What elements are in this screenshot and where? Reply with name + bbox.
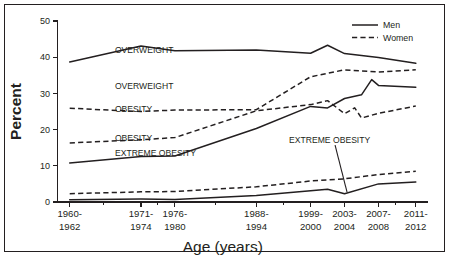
series-annotation-4: EXTREME OBESITY [115,148,196,158]
x-tick-label: 2012 [405,221,426,232]
x-tick-label: 2000 [300,221,321,232]
series-annotation-3: OBESITY [115,133,153,143]
x-tick-label: 1962 [59,221,80,232]
x-tick-label: 2011- [404,208,428,219]
x-tick-label: 2003- [332,208,357,219]
y-tick-label: 0 [45,197,50,207]
legend-label-women: Women [383,33,413,43]
y-tick-label: 20 [40,125,50,135]
x-tick-label: 2004 [334,221,356,232]
x-tick-label: 1988- [244,208,269,219]
x-tick-label: 1980 [164,221,185,232]
series-annotation-0: OVERWEIGHT [115,45,174,55]
series-annotation-5: EXTREME OBESITY [289,135,370,145]
x-tick-label: 1971- [129,208,154,219]
obesity-trend-line-chart: 010203040501960-19621971-19741976-198019… [0,0,449,266]
y-tick-label: 50 [40,16,50,26]
series-line-extreme-obesity-men [70,182,416,200]
x-tick-label: 1976- [163,208,188,219]
y-axis-title: Percent [7,83,24,140]
chart-figure: 010203040501960-19621971-19741976-198019… [0,0,449,266]
x-axis-title: Age (years) [183,238,263,255]
y-tick-label: 30 [40,89,50,99]
y-tick-label: 10 [40,161,50,171]
x-tick-label: 2008 [368,221,389,232]
annotation-layer: OVERWEIGHTOVERWEIGHTOBESITYOBESITYEXTREM… [115,45,371,192]
series-layer [70,45,416,200]
x-tick-label: 1999- [298,208,323,219]
x-tick-label: 1960- [57,208,82,219]
x-tick-label: 2007- [366,208,391,219]
legend-label-men: Men [383,20,400,30]
x-tick-label: 1974 [130,221,152,232]
x-tick-label: 1994 [246,221,268,232]
legend: MenWomen [352,20,413,43]
series-annotation-2: OBESITY [115,104,153,114]
annotation-leader-line [335,145,347,192]
y-tick-label: 40 [40,52,50,62]
series-annotation-1: OVERWEIGHT [115,81,174,91]
series-line-extreme-obesity-women [70,171,416,193]
